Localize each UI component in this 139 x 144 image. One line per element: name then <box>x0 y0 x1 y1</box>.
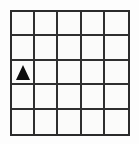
grid-cell-r2-c3[interactable] <box>58 36 81 60</box>
grid-cell-r3-c5[interactable] <box>105 61 128 85</box>
grid-cell-r5-c4[interactable] <box>82 110 105 134</box>
grid-cell-r5-c2[interactable] <box>35 110 58 134</box>
grid-cell-r3-c3[interactable] <box>58 61 81 85</box>
grid-cell-r1-c3[interactable] <box>58 12 81 36</box>
grid-cell-r3-c1[interactable] <box>12 61 35 85</box>
grid-cell-r1-c4[interactable] <box>82 12 105 36</box>
grid-cell-r4-c3[interactable] <box>58 85 81 109</box>
triangle-up-icon <box>16 65 30 80</box>
grid-cell-r5-c5[interactable] <box>105 110 128 134</box>
grid-cell-r4-c4[interactable] <box>82 85 105 109</box>
grid-cell-r1-c5[interactable] <box>105 12 128 36</box>
grid-cell-r2-c1[interactable] <box>12 36 35 60</box>
grid-cell-r3-c2[interactable] <box>35 61 58 85</box>
grid-cell-r5-c3[interactable] <box>58 110 81 134</box>
grid-cell-r1-c2[interactable] <box>35 12 58 36</box>
grid-cell-r5-c1[interactable] <box>12 110 35 134</box>
grid-cell-r1-c1[interactable] <box>12 12 35 36</box>
figure-canvas <box>0 0 139 144</box>
grid-cell-r2-c5[interactable] <box>105 36 128 60</box>
grid-cell-r3-c4[interactable] <box>82 61 105 85</box>
grid-cell-r4-c5[interactable] <box>105 85 128 109</box>
grid-cell-r2-c4[interactable] <box>82 36 105 60</box>
grid-cell-r4-c2[interactable] <box>35 85 58 109</box>
grid-board <box>10 10 130 136</box>
marker-slot <box>12 61 33 83</box>
grid-cell-r4-c1[interactable] <box>12 85 35 109</box>
grid-cell-r2-c2[interactable] <box>35 36 58 60</box>
